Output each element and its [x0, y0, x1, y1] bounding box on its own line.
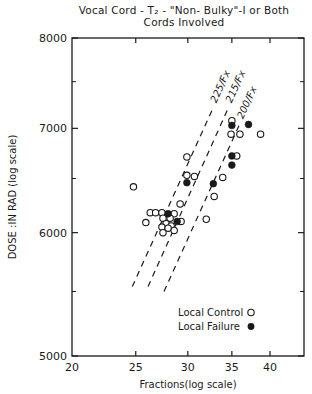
local-control-point	[228, 131, 234, 137]
legend-label-local-failure: Local Failure	[178, 321, 240, 332]
x-axis-label: Fractions(log scale)	[139, 379, 236, 390]
x-tick-label: 40	[263, 361, 277, 374]
y-tick-label: 6000	[39, 227, 67, 240]
local-control-point	[191, 173, 197, 179]
x-tick-label: 35	[225, 361, 239, 374]
local-control-point	[220, 174, 226, 180]
title-line-2: Cords Involved	[144, 16, 225, 28]
chart-title: Vocal Cord - T₂ - "Non- Bulky"-I or Both…	[79, 4, 289, 28]
x-axis-ticks: 2025303540	[65, 38, 277, 374]
title-line-1: Vocal Cord - T₂ - "Non- Bulky"-I or Both	[79, 4, 289, 16]
local-failure-point	[228, 122, 235, 129]
local-control-point	[171, 227, 177, 233]
local-control-point	[143, 219, 149, 225]
local-failure-point	[183, 179, 190, 186]
local-failure-point	[174, 218, 181, 225]
open-circle-icon	[248, 309, 254, 315]
y-tick-label: 8000	[39, 32, 67, 45]
legend-label-local-control: Local Control	[178, 307, 243, 318]
x-tick-label: 20	[65, 361, 79, 374]
local-control-point	[160, 229, 166, 235]
y-axis-label: DOSE :IN RAD (log scale)	[7, 135, 18, 260]
local-control-point	[130, 184, 136, 190]
x-tick-label: 30	[181, 361, 195, 374]
local-failure-point	[228, 153, 235, 160]
local-failure-point	[210, 180, 217, 187]
local-control-point	[152, 209, 158, 215]
local-control-point	[177, 201, 183, 207]
reference-line	[132, 107, 213, 286]
reference-lines: 225/Fx215/Fx200/Fx	[132, 69, 259, 292]
y-axis-ticks: 5000600070008000	[39, 32, 304, 363]
y-tick-label: 7000	[39, 122, 67, 135]
reference-line	[164, 124, 240, 292]
filled-circle-icon	[248, 323, 255, 330]
local-control-point	[237, 131, 243, 137]
local-control-point	[184, 172, 190, 178]
local-failure-point	[228, 162, 235, 169]
local-failure-point	[165, 210, 172, 217]
local-control-point	[211, 193, 217, 199]
y-tick-label: 5000	[39, 350, 67, 363]
local-failure-point	[245, 121, 252, 128]
local-control-point	[257, 131, 263, 137]
chart: Vocal Cord - T₂ - "Non- Bulky"-I or Both…	[0, 0, 312, 394]
legend: Local Control Local Failure	[178, 307, 254, 332]
local-control-point	[184, 154, 190, 160]
local-control-point	[203, 216, 209, 222]
x-tick-label: 25	[129, 361, 143, 374]
